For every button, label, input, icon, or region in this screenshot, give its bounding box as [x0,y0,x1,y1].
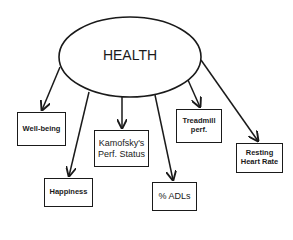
node-label-line2: perf. [191,126,207,135]
node-label: % ADLs [158,191,190,201]
node-resting-heart-rate: Resting Heart Rate [236,143,283,173]
node-karnofsky: Kamofsky's Perf. Status [94,130,149,167]
edge-happiness [69,92,89,176]
node-label-line2: Perf. Status [98,149,145,159]
node-happiness: Happiness [44,178,93,207]
node-treadmill: Treadmill perf. [176,109,222,143]
node-label-line1: Kamofsky's [99,138,145,148]
node-label: Happiness [50,188,88,197]
node-adls: % ADLs [152,182,197,211]
health-label: HEALTH [58,47,202,63]
node-label: Well-being [23,125,61,134]
node-label-line2: Heart Rate [241,158,279,167]
edge-adls [155,95,173,180]
edge-treadmill [188,80,200,107]
edge-well-being [42,67,60,110]
node-well-being: Well-being [17,112,66,146]
